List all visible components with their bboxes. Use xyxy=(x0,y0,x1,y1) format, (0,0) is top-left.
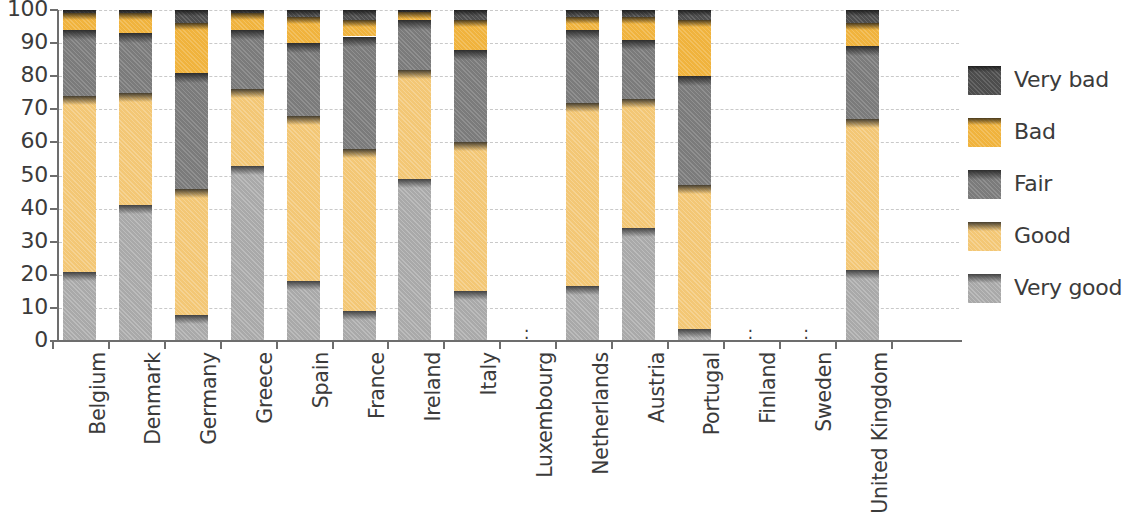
bar-segment-fair[interactable] xyxy=(175,73,208,189)
bar-segment-good[interactable] xyxy=(566,103,599,287)
bar-segment-fair[interactable] xyxy=(622,40,655,100)
bar-segment-good[interactable] xyxy=(398,70,431,179)
bar-segment-good[interactable] xyxy=(454,142,487,291)
bar-segment-fair[interactable] xyxy=(846,46,879,119)
bar-segment-bad[interactable] xyxy=(846,23,879,46)
bar-segment-very-good[interactable] xyxy=(343,311,376,341)
bar-segment-bad[interactable] xyxy=(231,13,264,30)
y-axis-tick-label: 80 xyxy=(0,64,48,86)
bar-segment-very-good[interactable] xyxy=(566,286,599,341)
bar-segment-fair[interactable] xyxy=(454,50,487,143)
y-axis-tick-labels: 0102030405060708090100 xyxy=(0,0,48,350)
bar-segment-very-good[interactable] xyxy=(63,272,96,342)
bar-france[interactable] xyxy=(343,10,376,341)
y-axis-tick-mark xyxy=(50,108,58,110)
bar-segment-very-good[interactable] xyxy=(454,291,487,341)
bar-segment-very-bad[interactable] xyxy=(678,10,711,20)
bar-segment-bad[interactable] xyxy=(678,20,711,76)
legend-item-fair[interactable]: Fair xyxy=(968,164,1121,216)
x-axis-label-austria: Austria xyxy=(647,352,667,520)
bar-segment-fair[interactable] xyxy=(287,43,320,116)
bar-segment-fair[interactable] xyxy=(63,30,96,96)
legend-item-bad[interactable]: Bad xyxy=(968,112,1121,164)
bar-ireland[interactable] xyxy=(398,10,431,341)
chart-legend: Very badBadFairGoodVery good xyxy=(968,60,1121,320)
bar-segment-very-bad[interactable] xyxy=(566,10,599,17)
legend-item-very-bad[interactable]: Very bad xyxy=(968,60,1121,112)
bar-segment-bad[interactable] xyxy=(287,17,320,43)
bar-portugal[interactable] xyxy=(678,10,711,341)
y-axis-tick-label: 100 xyxy=(0,0,48,20)
bar-sweden[interactable]: : xyxy=(790,10,823,341)
bar-segment-very-good[interactable] xyxy=(622,228,655,341)
bar-netherlands[interactable] xyxy=(566,10,599,341)
bar-segment-bad[interactable] xyxy=(63,13,96,30)
y-axis-tick-label: 90 xyxy=(0,31,48,53)
bar-germany[interactable] xyxy=(175,10,208,341)
bar-segment-very-good[interactable] xyxy=(231,166,264,341)
bar-segment-very-good[interactable] xyxy=(846,270,879,341)
bar-segment-fair[interactable] xyxy=(678,76,711,185)
bar-segment-bad[interactable] xyxy=(175,23,208,73)
bar-segment-fair[interactable] xyxy=(398,20,431,70)
bar-segment-good[interactable] xyxy=(287,116,320,282)
bar-segment-very-good[interactable] xyxy=(398,179,431,341)
bar-segment-very-bad[interactable] xyxy=(398,10,431,12)
bar-italy[interactable] xyxy=(454,10,487,341)
bar-segment-very-good[interactable] xyxy=(119,205,152,341)
x-axis-tick-mark xyxy=(779,342,781,349)
bar-segment-fair[interactable] xyxy=(566,30,599,103)
bar-segment-bad[interactable] xyxy=(119,13,152,33)
bar-segment-bad[interactable] xyxy=(398,12,431,20)
y-axis-tick-label: 40 xyxy=(0,197,48,219)
bar-austria[interactable] xyxy=(622,10,655,341)
x-axis-label-france: France xyxy=(367,352,387,520)
legend-label: Very bad xyxy=(1014,68,1109,92)
bar-segment-good[interactable] xyxy=(622,99,655,228)
y-axis-tick-label: 50 xyxy=(0,164,48,186)
bar-segment-very-bad[interactable] xyxy=(287,10,320,17)
x-axis-label-greece: Greece xyxy=(255,352,275,520)
x-axis-label-denmark: Denmark xyxy=(143,352,163,520)
legend-label: Good xyxy=(1014,224,1071,248)
bar-segment-good[interactable] xyxy=(846,119,879,270)
bar-segment-fair[interactable] xyxy=(343,37,376,150)
x-axis-tick-mark xyxy=(220,342,222,349)
bar-segment-very-bad[interactable] xyxy=(454,10,487,20)
bar-segment-very-bad[interactable] xyxy=(63,10,96,13)
bar-segment-very-bad[interactable] xyxy=(231,10,264,13)
bar-segment-good[interactable] xyxy=(175,189,208,315)
bar-segment-bad[interactable] xyxy=(343,20,376,37)
bar-segment-good[interactable] xyxy=(231,89,264,165)
bar-segment-very-bad[interactable] xyxy=(846,10,879,23)
bar-united-kingdom[interactable] xyxy=(846,10,879,341)
plot-area: ::: xyxy=(59,10,959,341)
bar-belgium[interactable] xyxy=(63,10,96,341)
y-axis-tick-mark xyxy=(50,9,58,11)
bar-segment-very-bad[interactable] xyxy=(175,10,208,23)
bar-segment-good[interactable] xyxy=(343,149,376,311)
bar-finland[interactable]: : xyxy=(734,10,767,341)
legend-item-good[interactable]: Good xyxy=(968,216,1121,268)
bar-segment-fair[interactable] xyxy=(231,30,264,90)
bar-segment-good[interactable] xyxy=(63,96,96,271)
bar-segment-very-bad[interactable] xyxy=(622,10,655,17)
bar-segment-fair[interactable] xyxy=(119,33,152,93)
x-axis-tick-mark xyxy=(667,342,669,349)
x-axis-tick-mark xyxy=(164,342,166,349)
bar-luxembourg[interactable]: : xyxy=(510,10,543,341)
bar-segment-bad[interactable] xyxy=(566,17,599,30)
bar-segment-good[interactable] xyxy=(678,185,711,329)
bar-segment-bad[interactable] xyxy=(454,20,487,50)
bar-segment-very-good[interactable] xyxy=(287,281,320,341)
bar-segment-very-bad[interactable] xyxy=(119,10,152,13)
bar-spain[interactable] xyxy=(287,10,320,341)
bar-segment-good[interactable] xyxy=(119,93,152,206)
bar-segment-very-good[interactable] xyxy=(175,315,208,341)
legend-item-very-good[interactable]: Very good xyxy=(968,268,1121,320)
bar-segment-bad[interactable] xyxy=(622,17,655,40)
bar-segment-very-bad[interactable] xyxy=(343,10,376,20)
bar-greece[interactable] xyxy=(231,10,264,341)
bar-denmark[interactable] xyxy=(119,10,152,341)
y-axis-tick-mark xyxy=(50,141,58,143)
